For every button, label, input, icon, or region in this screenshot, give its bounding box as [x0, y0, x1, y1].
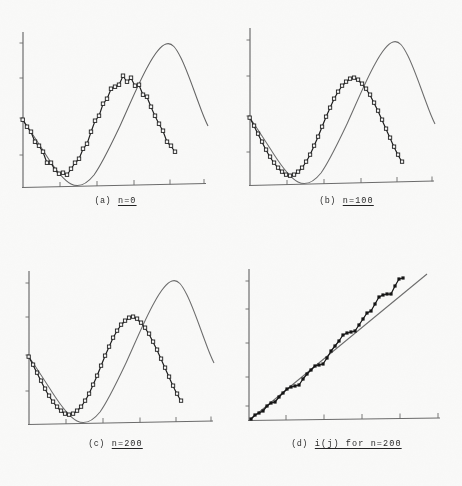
panel-c-caption: (c)n=200 — [0, 439, 231, 449]
panel-b-plot — [231, 0, 462, 200]
panel-c-plot — [0, 243, 231, 443]
panel-a-svg — [0, 0, 231, 200]
figure-sheet: (a)n=0 — [0, 0, 462, 486]
panel-d-svg — [231, 243, 462, 443]
panel-a-caption: (a)n=0 — [0, 196, 231, 206]
panel-d-staircase-line — [251, 278, 403, 419]
panel-a: (a)n=0 — [0, 0, 231, 243]
panel-c-markers — [27, 315, 183, 416]
panel-a-caption-label: n=0 — [118, 196, 137, 206]
panel-b-caption-tag: (b) — [319, 196, 336, 206]
panel-c-caption-label: n=200 — [112, 439, 143, 449]
panel-b-svg — [231, 0, 462, 200]
panel-c-reference-curve — [29, 281, 214, 423]
panel-d-axes — [246, 269, 441, 421]
panel-a-plot — [0, 0, 231, 200]
panel-d-caption-label: i(j) for n=200 — [315, 439, 402, 449]
panel-b-reference-curve — [250, 42, 435, 184]
panel-c-caption-tag: (c) — [88, 439, 105, 449]
panel-c-svg — [0, 243, 231, 443]
panel-a-caption-tag: (a) — [94, 196, 111, 206]
panel-d-caption: (d)i(j) for n=200 — [231, 439, 462, 449]
panel-a-markers — [21, 74, 177, 176]
panel-b: (b)n=100 — [231, 0, 462, 243]
panel-d-markers — [249, 276, 404, 420]
panel-a-iterate-line — [23, 76, 175, 175]
panel-b-markers — [248, 76, 404, 177]
panel-d-caption-tag: (d) — [291, 439, 308, 449]
panel-d-plot — [231, 243, 462, 443]
panel-b-caption-label: n=100 — [343, 196, 374, 206]
panel-c: (c)n=200 — [0, 243, 231, 486]
panel-d: (d)i(j) for n=200 — [231, 243, 462, 486]
panel-b-caption: (b)n=100 — [231, 196, 462, 206]
